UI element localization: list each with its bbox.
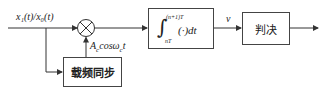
- lower-limit: nT: [165, 38, 171, 44]
- branch-line: [46, 28, 62, 72]
- multiplier-icon: [78, 20, 95, 37]
- carrier-cos: cosω: [99, 40, 119, 51]
- integrator-block: ∫ (n+1)T nT (·)dt: [148, 8, 214, 49]
- carrier-sync-block: 载频同步: [63, 57, 122, 87]
- decision-block: 判决: [242, 12, 290, 45]
- integrator-expression: ∫ (n+1)T nT (·)dt: [151, 11, 211, 47]
- carrier-sync-label: 载频同步: [71, 64, 115, 80]
- integrator-output-label: v: [226, 14, 230, 24]
- carrier-label: Accosωct: [90, 41, 126, 54]
- decision-label: 判决: [255, 21, 277, 37]
- input-signal-label: x₁(t)/x₀(t): [16, 12, 54, 22]
- carrier-t: t: [123, 40, 126, 51]
- upper-limit: (n+1)T: [166, 14, 183, 20]
- integrand: (·)dt: [178, 25, 197, 36]
